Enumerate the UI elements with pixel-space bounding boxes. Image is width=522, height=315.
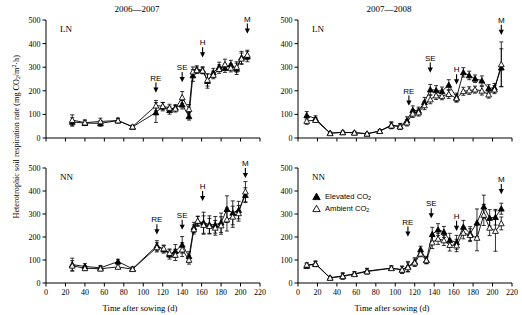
x-tick-label: 200: [235, 288, 247, 297]
annotation-se: SE: [177, 63, 188, 82]
marker-ambient: [195, 218, 201, 223]
y-tick-label: 200: [29, 87, 41, 96]
annotation-arrow-head: [200, 52, 205, 57]
annotation-arrow-head: [454, 226, 459, 231]
x-tick-label: 80: [372, 288, 380, 297]
x-tick-label: 0: [296, 288, 300, 297]
x-tick-label: 220: [506, 288, 518, 297]
axes: 0100200300400500: [29, 16, 261, 143]
y-tick-label: 100: [29, 256, 41, 265]
legend-label: Elevated CO2: [325, 192, 371, 201]
x-tick-label: 0: [44, 288, 48, 297]
marker-elevated: [460, 69, 466, 74]
annotation-label: H: [200, 38, 206, 47]
annotation-arrow-head: [200, 196, 205, 201]
x-tick-label: 180: [215, 288, 227, 297]
x-tick-label: 20: [61, 288, 69, 297]
y-tick-label: 100: [281, 256, 293, 265]
marker-ambient: [224, 217, 230, 222]
x-tick-label: 40: [333, 288, 341, 297]
annotation-re: RE: [402, 218, 413, 237]
marker-ambient: [222, 61, 228, 66]
marker-ambient: [446, 91, 452, 96]
y-tick-label: 300: [29, 210, 41, 219]
annotation-se: SE: [177, 211, 188, 230]
marker-elevated: [474, 220, 480, 225]
annotation-arrow-head: [406, 101, 411, 106]
annotation-h: H: [200, 182, 206, 201]
y-tick-label: 200: [281, 87, 293, 96]
annotation-arrow-head: [405, 232, 410, 237]
annotation-arrow-head: [154, 229, 159, 234]
marker-ambient: [498, 61, 504, 66]
y-tick-label: 100: [29, 110, 41, 119]
annotation-arrow-head: [245, 29, 250, 34]
x-tick-label: 180: [467, 288, 479, 297]
x-tick-label: 80: [120, 288, 128, 297]
annotation-label: SE: [425, 54, 436, 63]
annotation-arrow-head: [499, 189, 504, 194]
y-tick-label: 200: [281, 233, 293, 242]
y-tick-label: 300: [29, 63, 41, 72]
annotation-m: M: [242, 159, 249, 178]
annotation-arrow-head: [429, 213, 434, 218]
x-tick-label: 220: [254, 288, 266, 297]
marker-ambient: [244, 52, 250, 57]
series-line: [72, 55, 247, 127]
annotation-label: M: [244, 15, 251, 24]
annotation-se: SE: [425, 54, 436, 73]
y-tick-label: 500: [29, 164, 41, 173]
annotation-re: RE: [150, 74, 161, 93]
marker-ambient: [186, 106, 192, 111]
annotation-arrow-head: [153, 88, 158, 93]
annotation-re: RE: [151, 215, 162, 234]
y-tick-label: 400: [281, 40, 293, 49]
annotation-label: RE: [403, 87, 414, 96]
x-tick-label: 160: [196, 288, 208, 297]
y-tick-label: 500: [29, 16, 41, 25]
annotation-arrow-head: [499, 30, 504, 35]
axes: 0100200300400500020406080100120140160180…: [29, 164, 267, 297]
y-tick-label: 400: [29, 40, 41, 49]
y-tick-label: 300: [281, 210, 293, 219]
marker-ambient: [427, 97, 433, 102]
annotation-label: RE: [150, 74, 161, 83]
annotation-arrow-head: [180, 225, 185, 230]
x-tick-label: 60: [352, 288, 360, 297]
marker-ambient: [243, 189, 249, 194]
legend-marker-filled-triangle-icon: [312, 192, 321, 201]
panel-nn-2006-2007: 0100200300400500020406080100120140160180…: [20, 158, 268, 313]
annotation-m: M: [498, 16, 505, 35]
x-tick-label: 160: [448, 288, 460, 297]
x-axis-label: Time after sowing (d): [285, 303, 499, 313]
panel-label: LN: [60, 24, 72, 34]
annotation-label: M: [498, 175, 505, 184]
panel-ln-2007-2008: 0100200300400500RESEHM2007—2008LN: [272, 4, 520, 152]
legend-label: Ambient CO2: [325, 204, 369, 213]
y-tick-label: 100: [281, 110, 293, 119]
marker-ambient: [115, 264, 121, 269]
marker-elevated: [466, 73, 472, 78]
annotation-h: H: [200, 38, 206, 57]
panel-label: LN: [312, 24, 324, 34]
chart-svg: 0100200300400500020406080100120140160180…: [20, 158, 268, 313]
marker-elevated: [446, 82, 452, 87]
axes: 0100200300400500020406080100120140160180…: [281, 164, 519, 297]
x-tick-label: 20: [313, 288, 321, 297]
panel-nn-2007-2008: 0100200300400500020406080100120140160180…: [272, 158, 520, 313]
legend-item-elevated: Elevated CO2: [312, 192, 371, 201]
marker-ambient: [179, 95, 185, 100]
chart-svg: 0100200300400500020406080100120140160180…: [272, 158, 520, 313]
series-ambient: [69, 50, 250, 129]
y-tick-label: 0: [289, 279, 293, 288]
annotation-label: H: [454, 212, 460, 221]
marker-ambient: [481, 212, 487, 217]
y-tick-label: 500: [281, 164, 293, 173]
marker-ambient: [472, 87, 478, 92]
annotation-arrow-head: [428, 68, 433, 73]
chart-svg: 0100200300400500RESEHM: [20, 4, 268, 152]
y-tick-label: 200: [29, 233, 41, 242]
legend-item-ambient: Ambient CO2: [312, 204, 371, 213]
y-axis-label-container: Heterotrophic soil respiration rate (mg …: [0, 0, 16, 290]
annotation-label: H: [454, 65, 460, 74]
